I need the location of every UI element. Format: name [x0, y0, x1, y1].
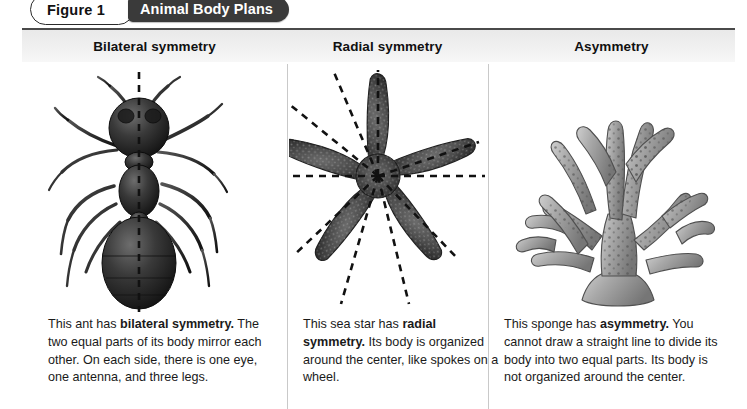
- sponge-svg: [490, 64, 735, 314]
- caption-radial: This sea star has radial symmetry. Its b…: [303, 316, 499, 387]
- ant-illustration: [22, 64, 287, 314]
- figure-number-label: Figure 1: [47, 1, 105, 18]
- caption-term: bilateral symmetry.: [120, 317, 234, 331]
- figure-title-pill: Animal Body Plans: [128, 0, 289, 22]
- figure-container: Figure 1 Animal Body Plans Bilateral sym…: [0, 0, 747, 409]
- figure-title-label: Animal Body Plans: [140, 1, 273, 17]
- caption-lead: This ant has: [48, 317, 120, 331]
- column-header-label: Bilateral symmetry: [93, 39, 216, 54]
- caption-term: asymmetry.: [600, 317, 669, 331]
- caption-lead: This sea star has: [303, 317, 402, 331]
- sea-star-svg: [289, 64, 488, 314]
- sea-star-body: [289, 64, 488, 295]
- column-header-band: Bilateral symmetry Radial symmetry Asymm…: [22, 28, 735, 62]
- column-radial-symmetry: This sea star has radial symmetry. Its b…: [289, 64, 488, 409]
- column-header-asymmetry: Asymmetry: [488, 30, 735, 62]
- column-header-bilateral: Bilateral symmetry: [22, 30, 287, 62]
- sponge-body: [516, 121, 714, 306]
- column-header-label: Radial symmetry: [333, 39, 443, 54]
- sea-star-illustration: [289, 64, 488, 314]
- column-header-radial: Radial symmetry: [287, 30, 488, 62]
- column-header-label: Asymmetry: [574, 39, 648, 54]
- column-bilateral-symmetry: This ant has bilateral symmetry. The two…: [22, 64, 287, 409]
- caption-asymmetry: This sponge has asymmetry. You cannot dr…: [504, 316, 726, 387]
- sponge-illustration: [490, 64, 735, 314]
- caption-lead: This sponge has: [504, 317, 600, 331]
- column-asymmetry: This sponge has asymmetry. You cannot dr…: [490, 64, 735, 409]
- caption-bilateral: This ant has bilateral symmetry. The two…: [48, 316, 280, 387]
- figure-number-pill: Figure 1: [30, 0, 134, 25]
- figure-title-bar: Figure 1 Animal Body Plans: [30, 0, 289, 25]
- ant-svg: [22, 64, 287, 314]
